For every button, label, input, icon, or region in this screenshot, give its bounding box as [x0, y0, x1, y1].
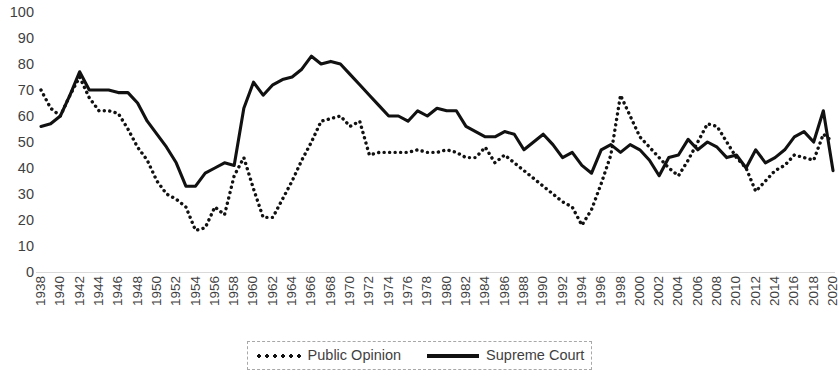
- legend-item-public-opinion[interactable]: Public Opinion: [255, 348, 402, 363]
- dotted-line-swatch-icon: [255, 354, 301, 358]
- x-tick-label-1986: 1986: [498, 276, 512, 306]
- x-tick-label-1976: 1976: [401, 276, 415, 306]
- x-tick-label-2004: 2004: [671, 276, 685, 306]
- legend-label-public-opinion: Public Opinion: [308, 348, 402, 363]
- x-tick-label-1954: 1954: [189, 276, 203, 306]
- x-tick-label-1990: 1990: [536, 276, 550, 306]
- x-tick-label-2000: 2000: [633, 276, 647, 306]
- x-tick-label-1944: 1944: [92, 276, 106, 306]
- x-axis: 1938194019421944194619481950195219541956…: [0, 276, 839, 336]
- x-tick-label-1994: 1994: [575, 276, 589, 306]
- x-tick-label-1984: 1984: [478, 276, 492, 306]
- x-tick-label-1958: 1958: [227, 276, 241, 306]
- x-tick-label-1940: 1940: [53, 276, 67, 306]
- x-tick-label-1966: 1966: [304, 276, 318, 306]
- x-tick-label-1970: 1970: [343, 276, 357, 306]
- x-tick-label-2006: 2006: [691, 276, 705, 306]
- x-tick-label-1996: 1996: [594, 276, 608, 306]
- x-tick-label-2012: 2012: [749, 276, 763, 306]
- plot-area: [0, 0, 839, 285]
- x-tick-label-1968: 1968: [324, 276, 338, 306]
- x-tick-label-1950: 1950: [150, 276, 164, 306]
- x-tick-label-1946: 1946: [111, 276, 125, 306]
- series-line-supreme-court: [41, 56, 833, 186]
- x-tick-label-1938: 1938: [34, 276, 48, 306]
- x-tick-label-1974: 1974: [382, 276, 396, 306]
- x-tick-label-1982: 1982: [459, 276, 473, 306]
- x-tick-label-1948: 1948: [131, 276, 145, 306]
- x-tick-label-1972: 1972: [362, 276, 376, 306]
- line-chart: 1009080706050403020100 19381940194219441…: [0, 0, 839, 377]
- x-tick-label-2002: 2002: [652, 276, 666, 306]
- x-tick-label-1956: 1956: [208, 276, 222, 306]
- series-line-public-opinion: [41, 77, 833, 230]
- x-tick-label-2014: 2014: [768, 276, 782, 306]
- x-tick-label-1978: 1978: [420, 276, 434, 306]
- x-tick-label-2018: 2018: [807, 276, 821, 306]
- legend-label-supreme-court: Supreme Court: [486, 348, 584, 363]
- x-tick-label-2020: 2020: [826, 276, 839, 306]
- x-tick-label-1992: 1992: [556, 276, 570, 306]
- x-tick-label-2016: 2016: [787, 276, 801, 306]
- x-tick-label-1998: 1998: [614, 276, 628, 306]
- x-tick-label-1952: 1952: [169, 276, 183, 306]
- x-tick-label-2010: 2010: [729, 276, 743, 306]
- solid-line-swatch-icon: [427, 354, 479, 358]
- x-tick-label-1960: 1960: [246, 276, 260, 306]
- chart-legend: Public Opinion Supreme Court: [247, 341, 592, 370]
- x-tick-label-1942: 1942: [73, 276, 87, 306]
- x-tick-label-1962: 1962: [266, 276, 280, 306]
- x-tick-label-1964: 1964: [285, 276, 299, 306]
- x-tick-label-1988: 1988: [517, 276, 531, 306]
- x-tick-label-2008: 2008: [710, 276, 724, 306]
- x-tick-label-1980: 1980: [440, 276, 454, 306]
- legend-item-supreme-court[interactable]: Supreme Court: [427, 348, 584, 363]
